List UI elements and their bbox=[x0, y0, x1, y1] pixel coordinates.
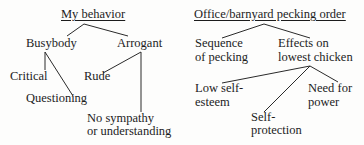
node-sequence-line2: of pecking bbox=[195, 51, 248, 65]
node-low-self-esteem-line2: esteem bbox=[195, 96, 230, 110]
node-critical: Critical bbox=[10, 70, 48, 84]
connector-lines bbox=[0, 0, 364, 145]
node-questioning: Questioning bbox=[26, 92, 87, 106]
right-tree-title: Office/barnyard pecking order bbox=[194, 8, 346, 22]
node-low-self-esteem-line1: Low self- bbox=[195, 82, 243, 96]
node-need-for-power-line1: Need for bbox=[308, 82, 352, 96]
left-tree-title: My behavior bbox=[61, 8, 125, 22]
node-no-sympathy-line2: or understanding bbox=[87, 125, 171, 139]
node-effects-line1: Effects on bbox=[278, 37, 329, 51]
node-rude: Rude bbox=[84, 70, 110, 84]
node-self-protection-line2: protection bbox=[251, 124, 302, 138]
node-arrogant: Arrogant bbox=[117, 37, 162, 51]
node-busybody: Busybody bbox=[26, 37, 77, 51]
node-need-for-power-line2: power bbox=[308, 96, 339, 110]
node-sequence-line1: Sequence bbox=[195, 37, 243, 51]
node-effects-line2: lowest chicken bbox=[278, 51, 353, 65]
